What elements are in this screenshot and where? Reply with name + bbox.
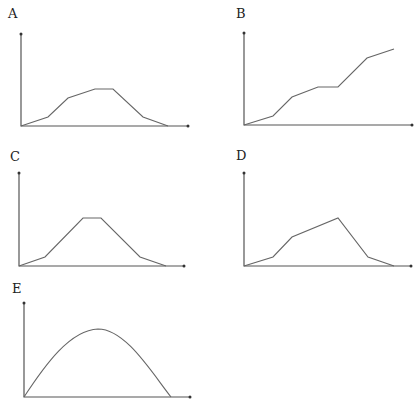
graph-line-d: [244, 218, 394, 266]
diagram-canvas: A B C D E: [0, 0, 419, 410]
panel-e: E: [12, 281, 192, 399]
axes-d: [244, 173, 411, 266]
panel-label-c: C: [10, 149, 20, 164]
panel-label-d: D: [236, 148, 246, 163]
panel-c: C: [10, 149, 186, 268]
graph-curve-e: [24, 329, 171, 397]
axes-a: [21, 34, 188, 126]
graph-line-a: [21, 89, 168, 126]
x-axis-arrow-d: [410, 265, 413, 268]
panel-label-b: B: [236, 6, 246, 21]
panel-b: B: [236, 6, 414, 127]
axes-b: [244, 33, 412, 125]
y-axis-arrow-c: [18, 172, 21, 175]
graph-line-b: [244, 49, 394, 125]
panel-d: D: [236, 148, 413, 268]
x-axis-arrow-b: [411, 124, 414, 127]
panel-label-e: E: [12, 281, 22, 296]
axes-c: [19, 173, 184, 266]
y-axis-arrow-a: [20, 33, 23, 36]
graph-line-c: [19, 218, 166, 266]
x-axis-arrow-e: [189, 396, 192, 399]
x-axis-arrow-c: [183, 265, 186, 268]
y-axis-arrow-d: [243, 172, 246, 175]
y-axis-arrow-e: [23, 302, 26, 305]
axes-e: [24, 303, 190, 397]
panel-a: A: [7, 6, 190, 128]
x-axis-arrow-a: [187, 125, 190, 128]
panel-label-a: A: [7, 6, 18, 21]
y-axis-arrow-b: [243, 32, 246, 35]
